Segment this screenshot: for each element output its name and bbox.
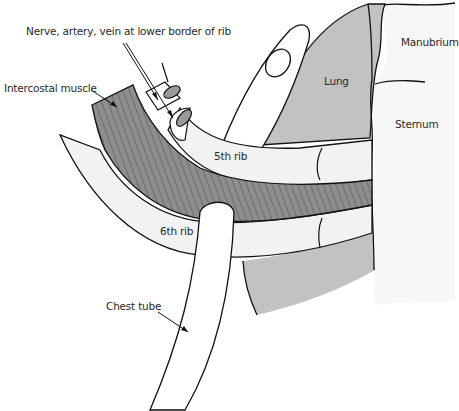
label-manubrium: Manubrium <box>401 36 459 48</box>
label-nerve-artery-vein: Nerve, artery, vein at lower border of r… <box>26 25 231 37</box>
label-5th-rib: 5th rib <box>214 150 247 162</box>
label-sternum: Sternum <box>395 118 439 130</box>
label-lung: Lung <box>324 75 349 87</box>
label-chest-tube: Chest tube <box>106 300 161 312</box>
label-6th-rib: 6th rib <box>160 225 193 237</box>
label-intercostal-muscle: Intercostal muscle <box>4 82 97 94</box>
